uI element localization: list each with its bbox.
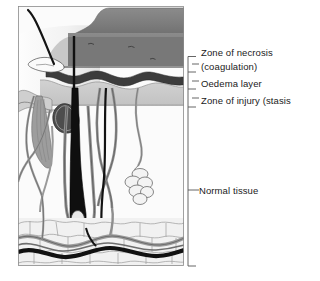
label-zone-of-injury: Zone of injury (stasis <box>201 95 291 106</box>
label-coagulation: (coagulation) <box>201 61 257 72</box>
label-oedema-layer: Oedema layer <box>201 78 262 89</box>
oedema-bracket <box>188 72 199 89</box>
label-brackets <box>188 57 199 267</box>
normal-tissue-bracket <box>188 107 199 266</box>
label-normal-tissue: Normal tissue <box>199 185 258 196</box>
tissue-block <box>18 6 184 266</box>
skin-cross-section-illustration <box>0 0 320 281</box>
eschar-lower <box>68 37 184 66</box>
injury-bracket <box>188 89 199 107</box>
figure-page: Zone of necrosis (coagulation) Oedema la… <box>0 0 320 281</box>
necrosis-bracket <box>188 57 199 73</box>
label-zone-of-necrosis: Zone of necrosis <box>201 47 273 58</box>
